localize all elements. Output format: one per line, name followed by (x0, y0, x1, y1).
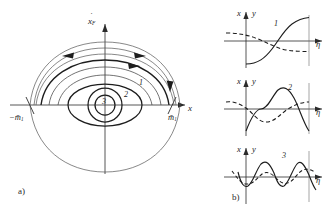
orbit-label-2: 2 (124, 91, 128, 99)
plot-3-series-x (238, 162, 316, 190)
plot-2-series-x (246, 88, 309, 131)
panel-a-phase-portrait (0, 2, 200, 192)
plot-1-xlabel-eta: η (316, 40, 320, 49)
plot-2-xlabel-eta: η (316, 108, 320, 117)
plot-1-ylabel-x: x (237, 9, 241, 18)
panel-a-caption: a) (18, 186, 25, 196)
orbit-label-1: 1 (139, 79, 143, 87)
panel-b-plot-3 (210, 142, 330, 208)
panel-b-plot-2 (210, 74, 330, 140)
flow-arrows (62, 53, 173, 93)
plot-2-ylabel-y: y (252, 77, 256, 86)
plot-3-xlabel-eta: η (316, 176, 320, 185)
plot-3-ylabel-x: x (237, 145, 241, 154)
orbit-label-3: 3 (102, 98, 106, 106)
panel-b-caption: b) (232, 192, 240, 202)
plot-3-curve-label: 3 (282, 152, 286, 160)
plot-1-series-y (226, 33, 309, 52)
panel-a-xaxis-label: x (188, 104, 192, 113)
flow-arrow-right-top (134, 53, 146, 59)
plot-1-axes (224, 12, 322, 68)
saddle-label-left: −m̄1 (9, 113, 23, 122)
flow-arrow-left-top (62, 53, 74, 59)
plot-2-ylabel-x: x (237, 77, 241, 86)
saddle-label-right: m̄1 (168, 113, 177, 122)
panel-b-plot-1 (210, 6, 330, 72)
figure-root: ̇xF x −m̄1 m̄1 1 2 3 a) x y η 1 x (0, 0, 335, 212)
plot-3-ylabel-y: y (252, 145, 256, 154)
plot-2-curve-label: 2 (288, 84, 292, 92)
plot-1-ylabel-y: y (252, 9, 256, 18)
flow-arrow-right-down (167, 81, 174, 93)
plot-1-curve-label: 1 (274, 20, 278, 28)
flow-arrow-right-mid (128, 63, 140, 69)
panel-a-yaxis-label: ̇xF (88, 17, 95, 27)
saddle-point-markers (26, 97, 176, 114)
